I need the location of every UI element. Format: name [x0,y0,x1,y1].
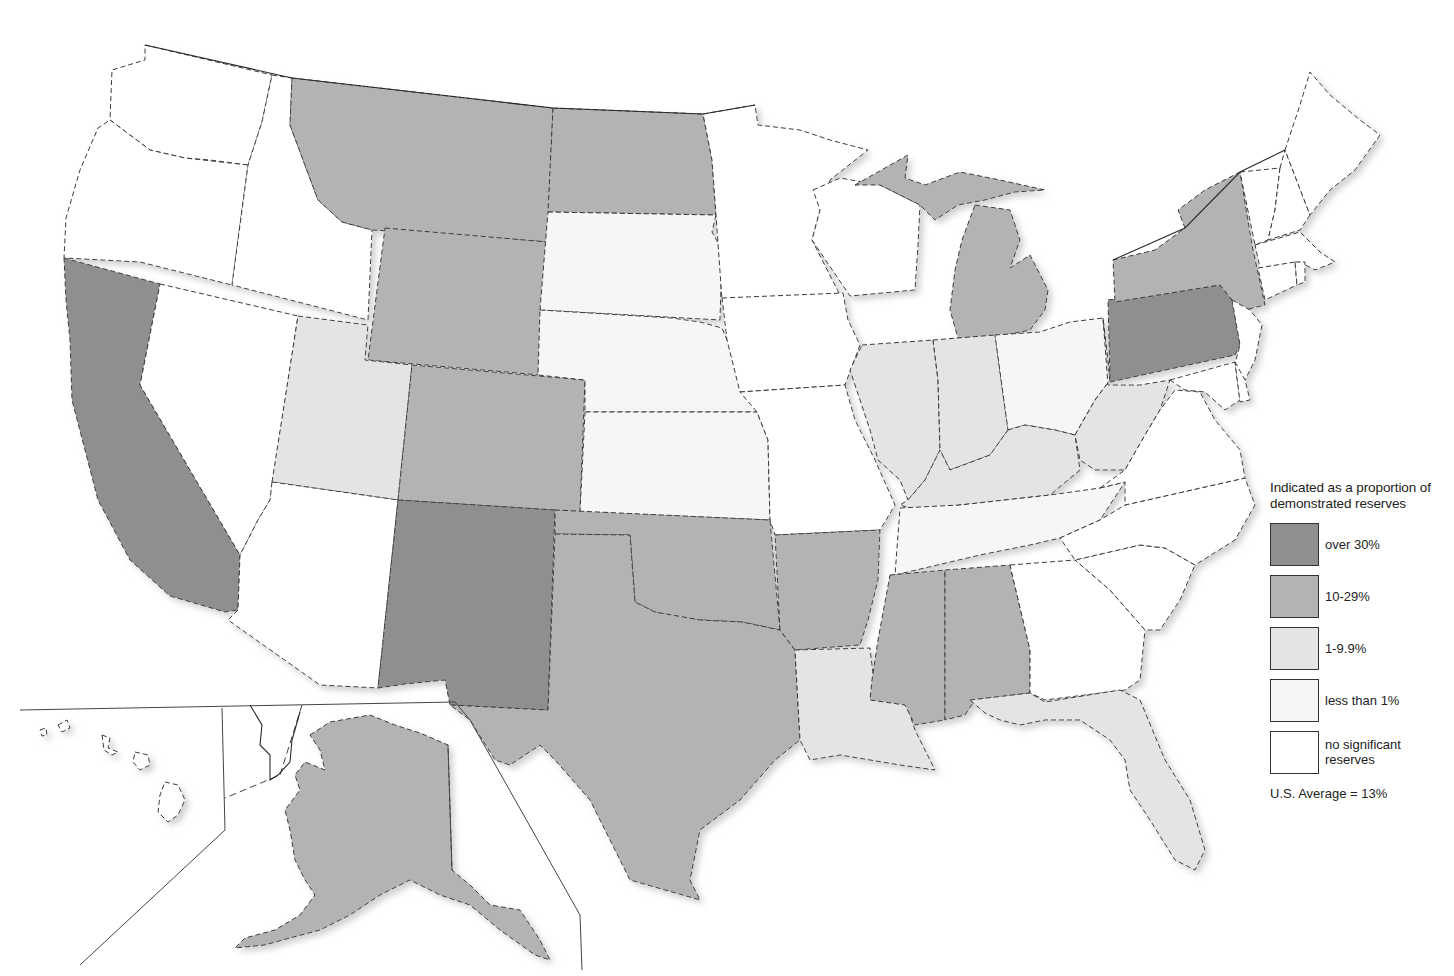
legend-item-10-29: 10-29% [1270,570,1454,622]
legend-title: Indicated as a proportion of demonstrate… [1270,480,1454,512]
state-FL [970,690,1205,870]
us-reserves-map [0,0,1454,976]
state-CO [398,365,585,512]
state-KS [580,412,770,520]
legend-item-lt-1: less than 1% [1270,674,1454,726]
legend-swatch [1270,523,1319,566]
state-HI-4 [133,752,150,770]
legend-swatch [1270,731,1319,774]
legend-label: no significant reserves [1325,737,1435,767]
state-MS [870,570,945,725]
siberia-coast [250,705,300,780]
state-SD [540,212,722,320]
legend-swatch [1270,575,1319,618]
state-HI-1 [58,720,70,732]
legend-label: 1-9.9% [1325,641,1435,656]
legend-item-none: no significant reserves [1270,726,1454,778]
legend-swatch [1270,679,1319,722]
us-average-label: U.S. Average = 13% [1270,786,1454,801]
state-WY [368,228,548,375]
hawaii-frame-divider [80,708,225,965]
state-IA [722,293,860,392]
legend-item-1-9-9: 1-9.9% [1270,622,1454,674]
state-HI-2 [40,728,47,736]
state-HI-3 [102,735,118,755]
state-AR [775,530,880,650]
state-CT [1258,262,1297,300]
legend-swatch [1270,627,1319,670]
legend-label: over 30% [1325,537,1435,552]
state-HI-5 [158,782,185,822]
legend-item-over-30: over 30% [1270,518,1454,570]
legend-label: 10-29% [1325,589,1435,604]
state-ND [548,108,716,215]
legend-label: less than 1% [1325,693,1435,708]
state-NY [1113,172,1265,310]
legend: Indicated as a proportion of demonstrate… [1270,480,1454,801]
state-RI [1295,262,1305,285]
state-MI [950,205,1048,345]
state-NM [378,500,555,710]
